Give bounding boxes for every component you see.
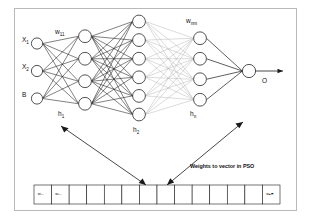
edges-input-to-h1 [43,36,79,104]
node-hidden-1-1 [79,30,92,43]
output-label: O [262,78,267,85]
node-hidden-2-3 [133,52,146,65]
node-hidden-2-5 [133,90,146,103]
node-hidden-n-4 [194,93,207,106]
node-input-3 [31,93,42,104]
vector-cell-label-2: w₂₁ [55,192,61,196]
node-input-1 [31,38,42,49]
node-hidden-1-3 [79,75,92,88]
vector-cell-7 [139,185,157,204]
weight-label-wnm: wnm [186,18,197,27]
vector-cell-6 [122,185,140,204]
node-hidden-1-2 [79,52,92,65]
node-output-1 [242,64,255,77]
node-hidden-n-1 [194,32,207,45]
vector-cell-13 [245,185,263,204]
edges-h2-to-hn [145,22,193,115]
layer-label-h1: h1 [58,111,64,120]
vector-cell-3 [69,185,87,204]
node-hidden-1-4 [79,97,92,110]
edges-hn-to-output [206,38,242,100]
vector-cell-5 [104,185,122,204]
node-hidden-2-6 [133,108,146,121]
pso-caption: Weights to vector in PSO [190,164,254,169]
vector-cell-label-14: wₙₘ [266,192,274,196]
node-hidden-2-1 [133,15,146,28]
vector-cell-9 [175,185,193,204]
node-hidden-n-3 [194,73,207,86]
network-nodes [31,15,255,121]
edges-h1-to-h2 [91,22,132,115]
input-label-b: B [22,92,26,99]
diagram-canvas: X1 X2 B w11 wnm h1 h2 hn O Weights to ve… [0,0,311,219]
pso-vector [34,185,280,204]
vector-cell-12 [227,185,245,204]
layer-label-h2: h2 [133,127,139,136]
vector-cell-8 [157,185,175,204]
mapping-arrow-right [167,122,243,185]
vector-cell-4 [87,185,105,204]
vector-cell-10 [192,185,210,204]
node-input-2 [31,65,42,76]
node-hidden-2-2 [133,34,146,47]
layer-label-hn: hn [190,111,196,120]
input-label-x1: X1 [22,37,29,46]
network-graphic [0,0,311,219]
weight-label-w11: w11 [55,29,64,38]
node-hidden-2-4 [133,71,146,84]
node-hidden-n-2 [194,52,207,65]
vector-cell-label-1: w₁₁ [38,192,44,196]
input-label-x2: X2 [22,64,29,73]
output-arrow [256,69,284,73]
vector-cell-11 [210,185,228,204]
